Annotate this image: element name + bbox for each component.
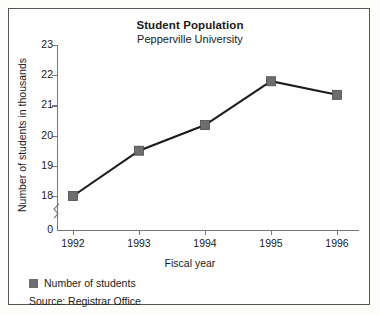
data-point-1994 — [201, 121, 210, 130]
data-point-1992 — [69, 192, 78, 201]
source-note: Source: Registrar Office — [29, 295, 141, 307]
data-point-1993 — [135, 146, 144, 155]
y-tick-label: 23 — [41, 38, 53, 50]
data-point-1995 — [267, 77, 276, 86]
y-tick-label: 18 — [41, 189, 53, 201]
title-block: Student Population Pepperville Universit… — [9, 18, 371, 47]
line-path — [73, 81, 337, 196]
figure-canvas: Student Population Pepperville Universit… — [0, 0, 380, 315]
y-axis-label: Number of students in thousands — [16, 40, 28, 230]
y-tick-label: 20 — [41, 129, 53, 141]
x-tick-label-1993: 1993 — [114, 237, 164, 249]
data-point-1996 — [333, 90, 342, 99]
x-tick-label-1995: 1995 — [246, 237, 296, 249]
marker-group — [69, 77, 342, 201]
y-tick-label: 22 — [41, 68, 53, 80]
series-number-of-students — [57, 45, 359, 238]
y-tick-label: 0 — [47, 223, 53, 235]
x-tick-label-1992: 1992 — [48, 237, 98, 249]
chart-frame: Student Population Pepperville Universit… — [8, 8, 370, 305]
plot-area: 23 22 21 20 19 18 0 — [57, 45, 359, 238]
page-title: Student Population — [9, 18, 371, 32]
x-tick-label-1994: 1994 — [180, 237, 230, 249]
y-tick-label: 21 — [41, 98, 53, 110]
legend-swatch-icon — [29, 279, 38, 288]
x-tick-label-1996: 1996 — [312, 237, 362, 249]
legend-label: Number of students — [44, 277, 136, 289]
x-axis-label: Fiscal year — [9, 257, 371, 269]
y-tick-label: 19 — [41, 159, 53, 171]
legend: Number of students — [29, 277, 136, 289]
